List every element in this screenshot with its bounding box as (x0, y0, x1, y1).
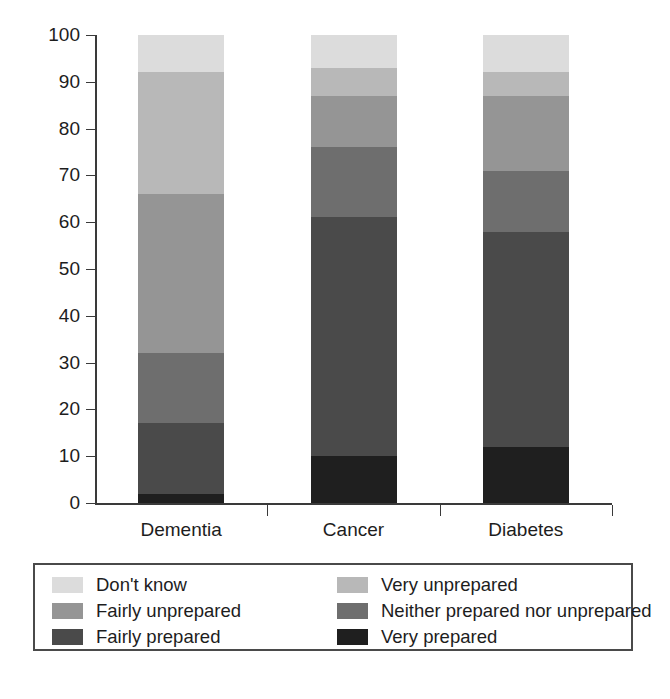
bar-segment (483, 35, 569, 72)
y-axis-tick (86, 503, 96, 504)
y-axis-tick-label-text: 70 (36, 165, 80, 184)
legend-swatch-icon (52, 603, 83, 619)
bar-segment (138, 494, 224, 503)
bar-segment (138, 194, 224, 353)
y-axis-tick-label-text: 30 (36, 353, 80, 372)
bar-cancer (311, 35, 397, 503)
legend-item: Neither prepared nor unprepared (337, 598, 651, 624)
legend-item-label: Fairly unprepared (96, 601, 241, 621)
bar-diabetes (483, 35, 569, 503)
y-axis-tick-label: 80 (28, 119, 80, 138)
y-axis-tick-label: 30 (28, 353, 80, 372)
bar-dementia (138, 35, 224, 503)
legend-item: Fairly unprepared (52, 598, 337, 624)
y-axis-tick-label-text: 50 (36, 259, 80, 278)
bar-group (95, 35, 612, 503)
bar-segment (311, 96, 397, 147)
legend-swatch-icon (52, 629, 83, 645)
bar-segment (483, 96, 569, 171)
y-axis-tick-label-text: 80 (36, 119, 80, 138)
y-axis-tick-label: 60 (28, 212, 80, 231)
legend-swatch-icon (337, 603, 368, 619)
legend-item-label: Don't know (96, 575, 187, 595)
y-axis-tick-label-text: 10 (36, 446, 80, 465)
stacked-bar-chart: 0102030405060708090100 DementiaCancerDia… (0, 0, 670, 699)
legend-swatch-icon (337, 629, 368, 645)
y-axis-tick-label-text: 0 (36, 493, 80, 512)
y-axis-tick-label: 40 (28, 306, 80, 325)
bar-segment (138, 423, 224, 493)
y-axis-tick-label: 90 (28, 72, 80, 91)
legend-item: Don't know (52, 572, 337, 598)
y-axis-tick-label: 50 (28, 259, 80, 278)
x-axis-tick (612, 505, 613, 516)
bar-segment (483, 232, 569, 447)
legend: Don't knowVery unpreparedFairly unprepar… (33, 563, 633, 651)
bar-segment (138, 72, 224, 194)
legend-item: Fairly prepared (52, 624, 337, 650)
legend-grid: Don't knowVery unpreparedFairly unprepar… (35, 572, 631, 650)
legend-item: Very prepared (337, 624, 651, 650)
y-axis-tick-label: 100 (28, 25, 80, 44)
bar-segment (483, 72, 569, 95)
y-axis-tick-label: 10 (28, 446, 80, 465)
x-axis-tick (440, 505, 441, 516)
legend-item-label: Very prepared (381, 627, 497, 647)
legend-item-label: Very unprepared (381, 575, 518, 595)
bar-segment (311, 147, 397, 217)
bar-segment (311, 217, 397, 456)
y-axis-tick-label-text: 20 (36, 399, 80, 418)
x-axis-tick (267, 505, 268, 516)
bar-segment (311, 456, 397, 503)
y-axis-tick-label-text: 40 (36, 306, 80, 325)
y-axis-tick-label-text: 90 (36, 72, 80, 91)
y-axis-tick-label-text: 60 (36, 212, 80, 231)
legend-item-label: Neither prepared nor unprepared (381, 601, 651, 621)
x-axis-label-cancer: Cancer (267, 519, 439, 541)
bar-segment (483, 447, 569, 503)
y-axis-tick-label: 20 (28, 399, 80, 418)
legend-swatch-icon (337, 577, 368, 593)
bar-segment (138, 35, 224, 72)
y-axis-tick-label: 0 (28, 493, 80, 512)
x-axis-label-diabetes: Diabetes (440, 519, 612, 541)
legend-item: Very unprepared (337, 572, 651, 598)
x-axis-line (95, 503, 612, 505)
legend-item-label: Fairly prepared (96, 627, 220, 647)
bar-segment (138, 353, 224, 423)
x-axis-label-dementia: Dementia (95, 519, 267, 541)
plot-area: 0102030405060708090100 DementiaCancerDia… (0, 0, 670, 545)
y-axis-tick-label: 70 (28, 165, 80, 184)
bar-segment (311, 35, 397, 68)
bar-segment (483, 171, 569, 232)
legend-swatch-icon (52, 577, 83, 593)
bar-segment (311, 68, 397, 96)
y-axis-tick-label-text: 100 (36, 25, 80, 44)
